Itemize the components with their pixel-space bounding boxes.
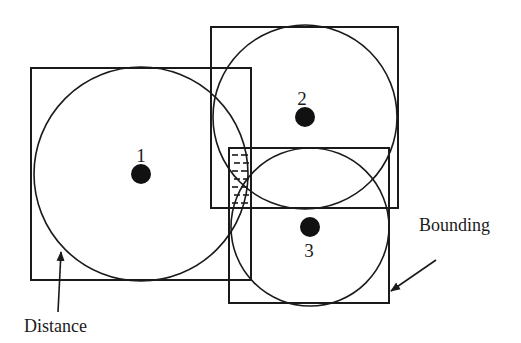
center-dot-3 — [300, 217, 320, 237]
bounding-caption: Bounding — [419, 216, 490, 234]
diagram-canvas — [0, 0, 521, 343]
distance-arrow-icon — [58, 252, 61, 312]
node-label-2: 2 — [297, 89, 307, 108]
center-dot-1 — [131, 164, 151, 184]
node-label-3: 3 — [304, 241, 314, 260]
bounding-arrow-icon — [391, 260, 436, 291]
center-dot-2 — [295, 107, 315, 127]
node-label-1: 1 — [136, 146, 146, 165]
distance-caption: Distance — [24, 317, 87, 335]
